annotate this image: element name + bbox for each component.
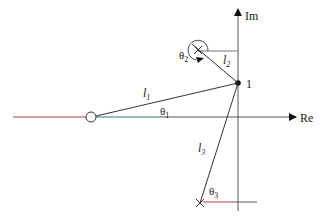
vector-l2-label: l2 xyxy=(223,53,230,69)
real-axis-label: Re xyxy=(300,111,313,125)
zero-marker xyxy=(86,112,96,122)
angle-theta2-arrowhead xyxy=(196,57,204,63)
vector-l2 xyxy=(192,44,238,83)
angle-theta1-label: θ1 xyxy=(160,105,169,120)
vector-l3 xyxy=(200,83,238,203)
test-point-label: 1 xyxy=(246,77,252,91)
vector-l3-label: l3 xyxy=(198,141,205,157)
vector-l1-label: l1 xyxy=(143,86,150,102)
upper-pole-marker xyxy=(194,46,202,54)
lower-pole-marker xyxy=(196,199,204,207)
angle-theta2-label: θ2 xyxy=(179,49,188,64)
imag-axis-label: Im xyxy=(245,9,259,23)
angle-theta3-label: θ3 xyxy=(209,185,218,200)
pole-zero-diagram: Im Re l1 θ1 1 θ2 l2 l3 θ3 xyxy=(0,0,320,220)
